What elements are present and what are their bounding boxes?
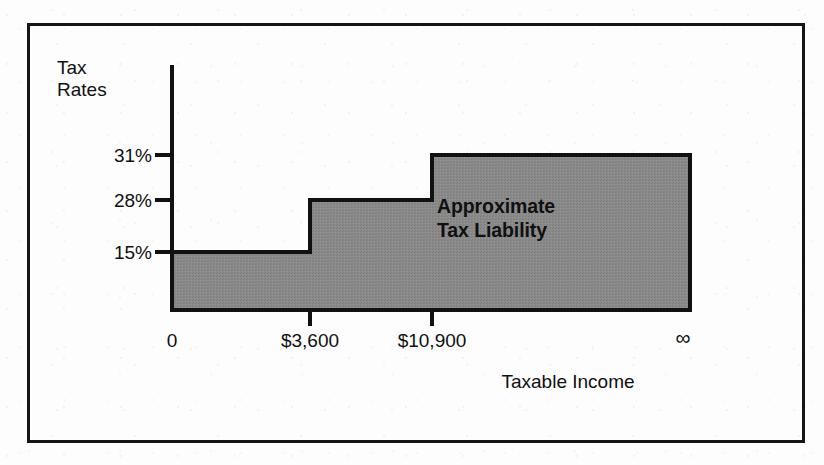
x-tick-label-infinity: ∞: [653, 326, 713, 350]
y-tick-label-28: 28%: [72, 190, 152, 212]
x-axis-title: Taxable Income: [473, 371, 663, 393]
y-axis-title-line-1: Tax: [57, 57, 87, 78]
x-tick-label-10900: $10,900: [374, 330, 490, 352]
tax-rate-step-chart-figure: TaxRates 31% 28% 15% 0 $3,600 $10,900 ∞ …: [0, 0, 824, 465]
chart-plot-area: [0, 0, 824, 465]
tax-liability-annotation: ApproximateTax Liability: [437, 195, 555, 243]
y-tick-label-15: 15%: [72, 242, 152, 264]
y-tick-label-31: 31%: [72, 145, 152, 167]
y-axis-title: TaxRates: [57, 57, 107, 101]
tax-liability-step-region: [172, 155, 690, 310]
tax-liability-annotation-line-2: Tax Liability: [437, 219, 547, 241]
y-axis-title-line-2: Rates: [57, 79, 107, 100]
x-tick-label-0: 0: [152, 330, 192, 352]
tax-liability-annotation-line-1: Approximate: [437, 195, 555, 217]
x-tick-label-3600: $3,600: [258, 330, 362, 352]
